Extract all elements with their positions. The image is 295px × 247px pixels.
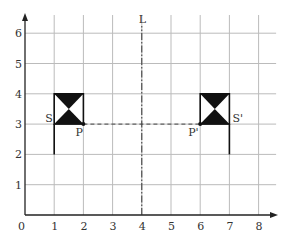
label-P: P' (188, 126, 198, 139)
shape-original: SP (45, 94, 85, 155)
x-tick-label: 6 (197, 220, 204, 233)
x-tick-label: 7 (226, 220, 233, 233)
y-tick-label: 6 (15, 27, 22, 40)
y-tick-label: 1 (15, 179, 22, 192)
x-tick-label: 3 (110, 220, 117, 233)
x-tick-label: 5 (168, 220, 175, 233)
y-tick-label: 2 (15, 148, 22, 161)
point-P (198, 122, 202, 126)
x-tick-label: 1 (51, 220, 58, 233)
x-tick-label: 2 (80, 220, 87, 233)
x-tick-label: 8 (256, 220, 263, 233)
label-S: S' (232, 112, 243, 125)
x-tick-label: 4 (139, 220, 146, 233)
coordinate-grid: 012345678123456 L SPS'P' (0, 0, 295, 247)
x-tick-label: 0 (18, 220, 25, 233)
tick-labels: 012345678123456 (15, 27, 263, 233)
y-tick-label: 4 (15, 88, 22, 101)
mirror-line-label: L (139, 13, 147, 26)
x-axis-arrow-icon (270, 212, 278, 218)
label-P: P (75, 126, 83, 139)
y-tick-label: 5 (15, 58, 22, 71)
label-S: S (45, 112, 53, 125)
y-tick-label: 3 (15, 118, 22, 131)
y-axis-arrow-icon (22, 13, 28, 21)
